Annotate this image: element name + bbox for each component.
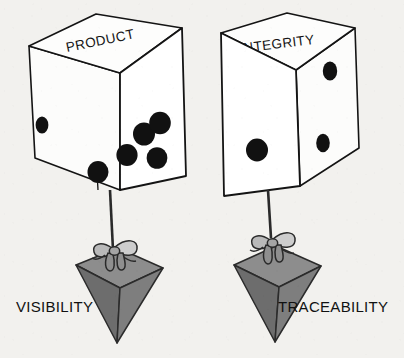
product-die: PRODUCT — [29, 14, 186, 190]
integrity-die-front-pips — [246, 139, 268, 162]
dice-pyramid-illustration: PRODUCT INTEGRITY — [0, 0, 404, 358]
illustration-canvas: PRODUCT INTEGRITY — [0, 0, 404, 358]
traceability-caption: TRACEABILITY — [278, 298, 388, 315]
visibility-caption: VISIBILITY — [16, 298, 93, 315]
product-die-side-pips — [36, 116, 49, 133]
